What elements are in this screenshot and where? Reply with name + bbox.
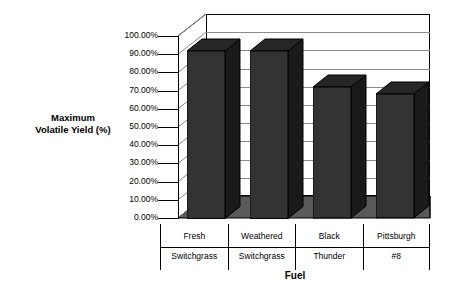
x-axis-category-label-line1: Pittsburgh [364,231,430,241]
y-axis-tick-label: 80.00% [96,67,158,76]
y-axis-line [178,36,179,219]
y-axis-tick-label: 70.00% [96,86,158,95]
x-axis-category-label-line1: Black [296,231,363,241]
y-axis-tick-label: 50.00% [96,122,158,131]
bar-front-face [187,51,225,218]
y-axis-tick-label: 90.00% [96,49,158,58]
chart-container: Maximum Volatile Yield (%) 100.00%90.00%… [0,0,454,294]
y-axis-tick-label: 0.00% [96,213,158,222]
bar-front-face [313,87,351,218]
bar-side-face [351,75,366,218]
x-axis-category-label-line1: Fresh [161,231,228,241]
bar-black-thunder [313,87,351,218]
y-axis-tick-label: 30.00% [96,158,158,167]
bar-shape [250,29,320,222]
y-axis-tick-label: 60.00% [96,104,158,113]
y-axis-tick-mark [158,182,178,183]
x-axis-category-label-line2: Thunder [296,251,363,261]
x-axis-category-label-line2: Switchgrass [161,251,228,261]
y-axis-tick-label: 20.00% [96,177,158,186]
y-axis-tick-labels: 100.00%90.00%80.00%70.00%60.00%50.00%40.… [96,0,158,294]
bar-side-face [414,82,429,218]
x-axis-category-label-line2: #8 [364,251,430,261]
bar-pittsburgh-8 [376,94,414,218]
y-axis-tick-mark [158,36,178,37]
y-axis-tick-mark [158,109,178,110]
y-axis-tick-mark [158,54,178,55]
x-axis-category-label-line2: Switchgrass [229,251,296,261]
x-axis-category-label-line1: Weathered [229,231,296,241]
bar-side-face [225,39,240,218]
bar-side-face [288,39,303,218]
x-axis-mid-rule [160,247,430,248]
y-axis-tick-mark [158,218,178,219]
y-axis-tick-label: 100.00% [96,31,158,40]
y-axis-tick-mark [158,163,178,164]
y-axis-tick-mark [158,145,178,146]
bar-weathered-switchgrass [250,51,288,218]
bar-fresh-switchgrass [187,51,225,218]
y-axis-tick-mark [158,127,178,128]
y-axis-tick-mark [158,200,178,201]
bar-shape [376,72,446,222]
bar-shape [313,65,383,222]
y-axis-tick-label: 10.00% [96,195,158,204]
y-axis-tick-mark [158,72,178,73]
bar-front-face [250,51,288,218]
x-axis-title: Fuel [160,270,430,281]
bar-shape [187,29,257,222]
y-axis-tick-mark [158,91,178,92]
bar-front-face [376,94,414,218]
y-axis-tick-label: 40.00% [96,140,158,149]
